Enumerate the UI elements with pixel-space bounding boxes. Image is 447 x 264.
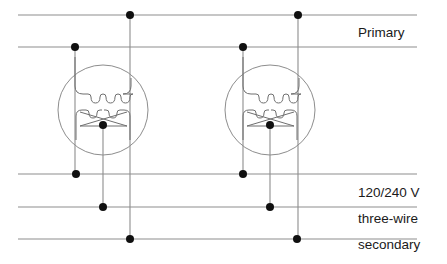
node-left-secondary-l2 xyxy=(126,235,134,243)
transformer-right-primary-winding xyxy=(243,57,301,103)
label-primary: Primary xyxy=(358,25,405,40)
node-left-primary-hot xyxy=(126,11,134,19)
node-left-primary-tap xyxy=(71,43,79,51)
transformer-schematic-diagram: Primary 120/240 V three-wire secondary xyxy=(0,0,447,264)
node-left-secondary-neutral xyxy=(99,203,107,211)
node-right-secondary-l1 xyxy=(239,170,247,178)
left-primary-winding-path xyxy=(75,57,133,103)
transformer-left-primary-winding xyxy=(75,57,133,103)
schematic-canvas: Primary 120/240 V three-wire secondary xyxy=(0,0,447,264)
label-secondary: secondary xyxy=(358,237,421,252)
connection-nodes-group xyxy=(71,11,302,243)
label-wire-count: three-wire xyxy=(358,211,418,226)
node-left-secondary-l1 xyxy=(72,170,80,178)
node-left-center-tap xyxy=(99,121,107,129)
node-right-primary-tap xyxy=(239,43,247,51)
label-voltage: 120/240 V xyxy=(358,185,420,200)
node-right-secondary-l2 xyxy=(293,235,301,243)
right-primary-winding-path xyxy=(243,57,301,103)
node-right-secondary-neutral xyxy=(266,203,274,211)
node-right-primary-hot xyxy=(294,11,302,19)
labels-group: Primary 120/240 V three-wire secondary xyxy=(358,25,421,252)
node-right-center-tap xyxy=(266,121,274,129)
